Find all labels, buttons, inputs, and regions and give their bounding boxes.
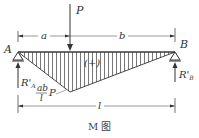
svg-text:ab: ab — [37, 83, 48, 93]
svg-text:P: P — [48, 87, 56, 98]
reaction-a-label: R'A — [20, 77, 36, 89]
reaction-a-arrow — [16, 62, 21, 88]
dim-l-label: l — [98, 100, 101, 111]
load-label: P — [75, 4, 84, 17]
dim-b-label: b — [119, 30, 125, 41]
reaction-b-label: R'B — [178, 69, 194, 81]
support-b-label: B — [179, 38, 188, 51]
support-a-label: A — [3, 43, 12, 56]
moment-sign: (+) — [84, 57, 100, 68]
bending-moment-diagram: P a b A B R'A R'B (+) ab l — [0, 0, 199, 138]
dim-a-label: a — [41, 30, 47, 41]
reaction-b-arrow — [173, 62, 178, 82]
figure-caption: M 图 — [88, 121, 111, 132]
load-arrow — [67, 4, 73, 51]
svg-text:l: l — [40, 93, 43, 103]
